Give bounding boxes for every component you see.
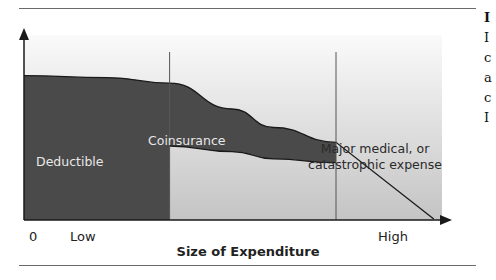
x-axis-arrow — [440, 215, 452, 225]
side-char: c — [484, 88, 492, 108]
major-medical-label-line-2: catastrophic expense — [300, 157, 450, 173]
x-tick-label-0: 0 — [29, 229, 37, 244]
side-char: I — [484, 108, 492, 128]
major-medical-label-line-1: Major medical, or — [300, 141, 450, 157]
side-char: I — [484, 28, 492, 48]
bottom-rule — [19, 265, 476, 266]
deductible-label: Deductible — [36, 154, 104, 170]
coinsurance-label: Coinsurance — [148, 133, 226, 149]
side-char: a — [484, 68, 492, 88]
x-tick-label-high: High — [378, 229, 408, 244]
side-char: I — [484, 8, 492, 28]
x-axis-title: Size of Expenditure — [0, 244, 496, 259]
y-axis-arrow — [19, 28, 29, 40]
major-medical-label: Major medical, or catastrophic expense — [300, 141, 450, 173]
side-char: c — [484, 48, 492, 68]
x-tick-label-low: Low — [70, 229, 96, 244]
side-text-fragment: I I c a c I — [484, 8, 492, 128]
